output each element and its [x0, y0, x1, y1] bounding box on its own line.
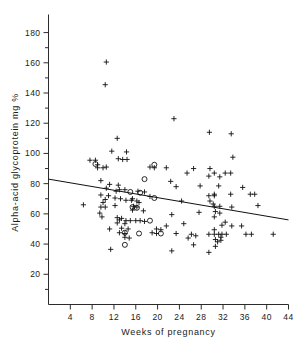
y-tick-label: 80: [30, 179, 40, 189]
x-tick-label: 44: [283, 312, 293, 322]
x-tick-label: 28: [196, 312, 206, 322]
x-tick-label: 4: [68, 312, 73, 322]
data-point-circle: [137, 231, 142, 236]
data-point-circle: [147, 218, 152, 223]
chart-figure: 2040608010012014016018048121620242832364…: [0, 0, 302, 363]
data-point-circle: [122, 242, 127, 247]
x-tick-label: 16: [131, 312, 141, 322]
y-tick-label: 160: [25, 58, 40, 68]
y-axis-title: Alpha-acid glycoprotein mg %: [10, 93, 20, 232]
data-point-circle: [142, 177, 147, 182]
regression-line: [49, 179, 289, 220]
x-axis-title: Weeks of pregnancy: [121, 327, 215, 337]
series-plus-markers: [81, 59, 276, 255]
data-point-circle: [152, 196, 157, 201]
y-tick-label: 180: [25, 28, 40, 38]
x-tick-label: 24: [174, 312, 184, 322]
y-tick-label: 100: [25, 148, 40, 158]
y-tick-label: 140: [25, 88, 40, 98]
x-tick-label: 8: [90, 312, 95, 322]
x-tick-label: 20: [152, 312, 162, 322]
y-tick-label: 20: [30, 269, 40, 279]
y-tick-label: 120: [25, 118, 40, 128]
x-tick-label: 12: [109, 312, 119, 322]
y-tick-label: 60: [30, 209, 40, 219]
x-tick-label: 40: [262, 312, 272, 322]
y-tick-label: 40: [30, 239, 40, 249]
scatter-plot: 2040608010012014016018048121620242832364…: [0, 0, 302, 363]
x-tick-label: 32: [218, 312, 228, 322]
x-tick-label: 36: [240, 312, 250, 322]
